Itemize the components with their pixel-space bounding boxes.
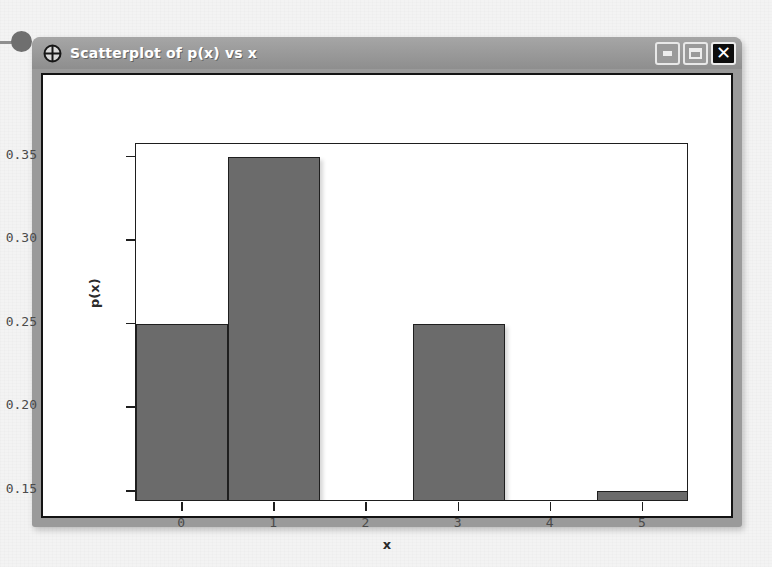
- close-button[interactable]: ✕: [711, 42, 736, 65]
- x-axis-tick: [458, 502, 460, 511]
- y-axis-tick-label: 0.25: [6, 314, 37, 329]
- y-axis-tick-label: 0.15: [6, 481, 37, 496]
- y-axis-tick-label: 0.30: [6, 230, 37, 245]
- x-axis-tick-label: 2: [345, 515, 385, 530]
- bar-chart: 0.150.200.250.300.35 012345 p(x) x: [43, 75, 731, 516]
- y-axis-tick: [126, 156, 135, 158]
- maximize-button[interactable]: [683, 42, 708, 65]
- pin-dot-decoration: [11, 31, 32, 52]
- y-axis-tick: [126, 239, 135, 241]
- x-axis-tick: [181, 502, 183, 511]
- window-controls: ✕: [655, 42, 736, 65]
- y-axis-tick-label: 0.20: [6, 397, 37, 412]
- y-axis-tick: [126, 323, 135, 325]
- y-axis-title: p(x): [87, 278, 102, 308]
- x-axis-tick-label: 4: [530, 515, 570, 530]
- x-axis-tick: [365, 502, 367, 511]
- x-axis-tick: [550, 502, 552, 511]
- x-axis-tick-label: 1: [253, 515, 293, 530]
- screen: Scatterplot of p(x) vs x ✕ 0.150.200.250…: [0, 0, 772, 567]
- x-axis-tick-label: 5: [622, 515, 662, 530]
- minimize-icon: [663, 51, 672, 56]
- window-titlebar[interactable]: Scatterplot of p(x) vs x ✕: [32, 37, 742, 69]
- bar: [228, 157, 320, 501]
- bar: [136, 324, 228, 501]
- maximize-icon: [689, 48, 702, 59]
- x-axis-tick: [273, 502, 275, 511]
- plot-window: Scatterplot of p(x) vs x ✕ 0.150.200.250…: [32, 37, 742, 527]
- x-axis-tick-label: 3: [438, 515, 478, 530]
- y-axis-tick: [126, 406, 135, 408]
- x-axis-tick-label: 0: [161, 515, 201, 530]
- crosshair-target-icon: [43, 44, 62, 63]
- close-icon: ✕: [716, 46, 731, 60]
- plot-axes-area: [135, 143, 688, 501]
- y-axis-tick: [126, 490, 135, 492]
- bar: [597, 491, 688, 501]
- window-title: Scatterplot of p(x) vs x: [70, 45, 655, 61]
- x-axis-tick: [642, 502, 644, 511]
- bar: [413, 324, 505, 501]
- window-client-area: 0.150.200.250.300.35 012345 p(x) x: [41, 73, 733, 518]
- minimize-button[interactable]: [655, 42, 680, 65]
- x-axis-title: x: [43, 537, 731, 552]
- y-axis-tick-label: 0.35: [6, 147, 37, 162]
